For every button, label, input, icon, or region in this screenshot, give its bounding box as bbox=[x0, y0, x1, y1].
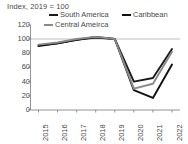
series-line-caribbean bbox=[39, 38, 173, 98]
plot-area bbox=[0, 0, 188, 144]
chart-svg bbox=[0, 0, 188, 144]
series-line-central-america bbox=[39, 37, 173, 89]
chart-container: Index, 2019 = 100 South America Caribbea… bbox=[0, 0, 188, 144]
